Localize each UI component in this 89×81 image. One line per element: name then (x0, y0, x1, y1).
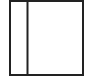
sidebar-layout-icon (0, 0, 89, 81)
panel-outline (10, 1, 83, 75)
